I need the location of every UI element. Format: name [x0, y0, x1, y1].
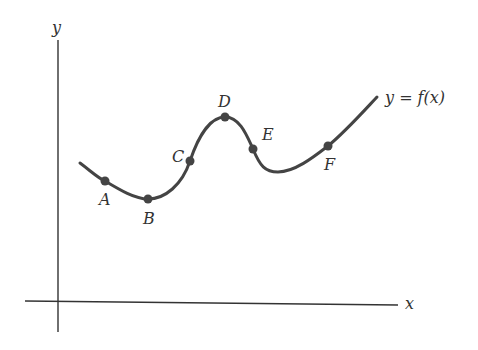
point-e-label: E	[261, 125, 274, 144]
point-b-marker	[144, 195, 153, 204]
x-axis-label: x	[405, 294, 414, 313]
point-e-marker	[249, 145, 258, 154]
function-graph: y x ABCDEF y = f(x)	[0, 0, 478, 350]
point-c-label: C	[172, 147, 184, 166]
point-d-label: D	[217, 92, 231, 111]
curve-label: y = f(x)	[384, 88, 445, 107]
point-a-label: A	[97, 190, 111, 209]
point-b-label: B	[142, 209, 155, 228]
point-f-marker	[324, 142, 333, 151]
function-curve	[80, 97, 377, 199]
point-a-marker	[101, 177, 110, 186]
point-c-marker	[186, 157, 195, 166]
y-axis-label: y	[51, 18, 62, 37]
point-d-marker	[221, 113, 230, 122]
x-axis	[25, 301, 398, 305]
point-f-label: F	[323, 155, 336, 174]
